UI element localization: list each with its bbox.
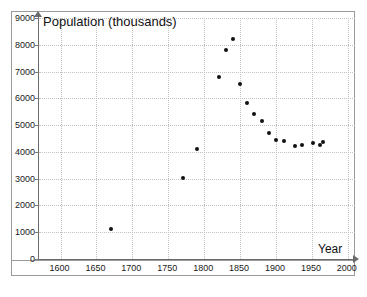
plot-area: [38, 18, 354, 259]
data-point: [252, 112, 256, 116]
data-point: [311, 141, 315, 145]
gridline-horizontal: [39, 152, 355, 153]
x-axis-tick-label: 1850: [222, 263, 256, 274]
data-point: [109, 227, 113, 231]
gridline-vertical: [312, 18, 313, 259]
y-axis-tick-mark: [35, 232, 39, 233]
y-axis-tick-label: 6000: [3, 93, 35, 103]
gridline-horizontal: [39, 72, 355, 73]
gridline-horizontal: [39, 45, 355, 46]
x-axis-tick-label: 1950: [294, 263, 328, 274]
data-point: [260, 119, 264, 123]
y-axis-arrow-icon: [34, 11, 42, 17]
y-axis-tick-label: 7000: [3, 67, 35, 77]
y-axis-tick-label: 1000: [3, 227, 35, 237]
x-axis-title: Year: [318, 242, 342, 256]
data-point: [300, 143, 304, 147]
x-axis-tick-label: 1900: [258, 263, 292, 274]
gridline-vertical: [168, 18, 169, 259]
data-point: [267, 131, 271, 135]
x-axis-tick-label: 1750: [150, 263, 184, 274]
y-axis-tick-label: 4000: [3, 147, 35, 157]
data-point: [231, 37, 235, 41]
y-axis-tick-mark: [35, 45, 39, 46]
gridline-horizontal: [39, 98, 355, 99]
gridline-vertical: [61, 18, 62, 259]
data-point: [245, 101, 249, 105]
data-point: [181, 176, 185, 180]
gridline-vertical: [348, 18, 349, 259]
gridline-horizontal: [39, 125, 355, 126]
y-axis-tick-mark: [35, 98, 39, 99]
y-axis-tick-labels: 0100020003000400050006000700080009000: [0, 0, 35, 297]
x-axis-tick-label: 1800: [186, 263, 220, 274]
x-axis-tick-label: 1600: [43, 263, 77, 274]
y-axis-tick-mark: [35, 125, 39, 126]
gridline-vertical: [204, 18, 205, 259]
y-axis-line: [38, 14, 39, 260]
data-point: [217, 75, 221, 79]
y-axis-tick-mark: [35, 259, 39, 260]
gridline-vertical: [132, 18, 133, 259]
gridline-horizontal: [39, 179, 355, 180]
scatter-chart: 0100020003000400050006000700080009000 16…: [0, 0, 367, 297]
y-axis-tick-label: 3000: [3, 174, 35, 184]
y-axis-tick-label: 9000: [3, 13, 35, 23]
y-axis-tick-mark: [35, 72, 39, 73]
y-axis-tick-mark: [35, 205, 39, 206]
x-axis-tick-label: 1700: [114, 263, 148, 274]
data-point: [274, 138, 278, 142]
data-point: [282, 139, 286, 143]
y-axis-tick-mark: [35, 152, 39, 153]
gridline-vertical: [96, 18, 97, 259]
x-axis-tick-label: 2000: [330, 263, 364, 274]
y-axis-tick-label: 0: [3, 254, 35, 264]
y-axis-tick-label: 5000: [3, 120, 35, 130]
gridline-horizontal: [39, 205, 355, 206]
data-point: [238, 82, 242, 86]
x-axis-arrow-icon: [353, 255, 359, 263]
data-point: [293, 144, 297, 148]
data-point: [321, 140, 325, 144]
data-point: [195, 147, 199, 151]
gridline-horizontal: [39, 232, 355, 233]
y-axis-tick-mark: [35, 18, 39, 19]
data-point: [224, 48, 228, 52]
x-label-divider-bottom: [12, 275, 354, 276]
chart-title: Population (thousands): [43, 14, 177, 29]
x-axis-line: [38, 259, 355, 260]
y-axis-tick-label: 8000: [3, 40, 35, 50]
gridline-vertical: [240, 18, 241, 259]
x-label-divider-top: [12, 260, 354, 261]
x-axis-tick-label: 1650: [78, 263, 112, 274]
y-axis-tick-mark: [35, 179, 39, 180]
y-axis-tick-label: 2000: [3, 200, 35, 210]
